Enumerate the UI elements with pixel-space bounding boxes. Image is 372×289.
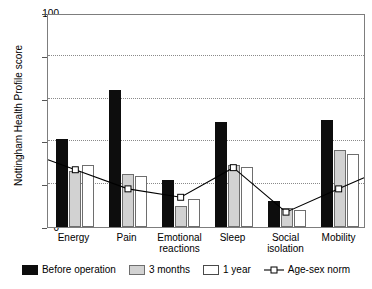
line-open-square-marker-icon (264, 265, 284, 275)
norm-marker (283, 209, 289, 215)
legend-item: Age-sex norm (264, 264, 350, 275)
y-axis-title: Nottingham Health Profile score (13, 6, 24, 226)
chart-figure: Nottingham Health Profile score 02040608… (0, 0, 372, 289)
legend-item: Before operation (22, 264, 116, 275)
gray-square-swatch-icon (129, 265, 145, 275)
legend-item: 3 months (129, 264, 190, 275)
x-tick-label: Mobility (299, 232, 372, 243)
norm-marker (125, 186, 131, 192)
y-tick-mark (42, 228, 47, 229)
legend-label: Age-sex norm (288, 264, 350, 275)
norm-marker (336, 186, 342, 192)
legend-label: Before operation (42, 264, 116, 275)
legend-label: 1 year (223, 264, 251, 275)
norm-marker (72, 167, 78, 173)
norm-line-path (48, 160, 364, 212)
black-square-swatch-icon (22, 265, 38, 275)
age-sex-norm-line (48, 15, 364, 227)
white-square-swatch-icon (203, 265, 219, 275)
legend-label: 3 months (149, 264, 190, 275)
norm-marker (230, 165, 236, 171)
plot-area (47, 14, 365, 228)
legend-item: 1 year (203, 264, 251, 275)
norm-marker (178, 194, 184, 200)
chart-legend: Before operation3 months1 yearAge-sex no… (0, 264, 372, 275)
